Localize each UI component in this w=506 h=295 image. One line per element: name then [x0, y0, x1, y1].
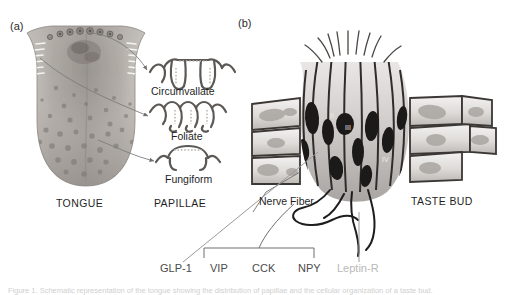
cell-type-label-ii: II [330, 112, 334, 119]
cell-type-label-iii: III [345, 124, 351, 131]
figure-illustration [0, 0, 506, 295]
papilla-foliate-diagram [150, 102, 226, 132]
figure-caption: Figure 1. Schematic representation of th… [8, 287, 500, 295]
papilla-label-circumvallate: Circumvallate [151, 86, 215, 97]
peptide-label-vip: VIP [210, 263, 228, 274]
peptide-label-glp1: GLP-1 [160, 263, 192, 274]
cell-type-label-iv: IV [382, 156, 389, 163]
taste-bud-body [298, 31, 409, 202]
panel-tag-b: (b) [238, 18, 251, 29]
peptide-label-cck: CCK [252, 263, 275, 274]
nerve-fiber-label: Nerve Fiber [259, 196, 314, 207]
papilla-label-foliate: Foliate [171, 131, 203, 142]
peptide-label-npy: NPY [298, 263, 321, 274]
papillae-label: PAPILLAE [154, 198, 206, 209]
figure-container: (a) (b) Circumvallate Foliate Fungiform … [0, 0, 506, 295]
tongue-illustration [27, 26, 145, 190]
papilla-label-fungiform: Fungiform [165, 174, 212, 185]
taste-bud-label: TASTE BUD [411, 196, 473, 207]
tongue-label: TONGUE [56, 198, 103, 209]
panel-tag-a: (a) [10, 21, 23, 32]
peptide-label-leptin-r: Leptin-R [337, 263, 379, 274]
